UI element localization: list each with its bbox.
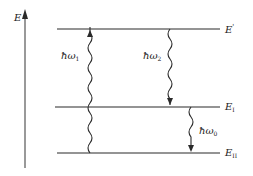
axis-label: E xyxy=(14,13,21,23)
arrow-up-icon xyxy=(87,30,93,37)
arrow-down-icon xyxy=(167,98,173,105)
level-subscript: I xyxy=(232,106,234,113)
transition-label-absorption: ħω1 xyxy=(61,51,79,62)
level-superscript: ' xyxy=(232,23,234,31)
transition-emission-0 xyxy=(188,107,194,152)
transition-label-emission-0: ħω0 xyxy=(199,126,217,137)
transition-emission-2 xyxy=(167,29,173,105)
hbar-omega: ħω xyxy=(61,50,76,61)
transition-absorption xyxy=(87,27,93,153)
hbar-omega: ħω xyxy=(143,50,158,61)
level-label-e-two: EII xyxy=(225,148,237,159)
transition-subscript: 2 xyxy=(158,55,162,62)
transition-subscript: 0 xyxy=(214,130,218,137)
transition-subscript: 1 xyxy=(76,55,80,62)
arrow-down-icon xyxy=(188,145,194,152)
energy-level-diagram xyxy=(0,0,253,176)
energy-axis xyxy=(22,9,28,168)
level-subscript: II xyxy=(232,152,237,159)
level-label-e-one: EI xyxy=(225,102,235,113)
transition-label-emission-2: ħω2 xyxy=(143,51,161,62)
level-label-e-prime: E' xyxy=(225,24,234,35)
hbar-omega: ħω xyxy=(199,125,214,136)
axis-arrow-icon xyxy=(22,9,28,19)
